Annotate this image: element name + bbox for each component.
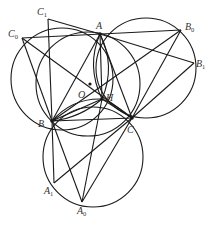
line-b-a1 — [52, 121, 54, 183]
point-c — [130, 116, 134, 120]
line-c-a0 — [82, 118, 132, 202]
line-a-c — [100, 34, 132, 118]
label-b0: B0 — [185, 21, 194, 33]
label-a: A — [95, 20, 103, 31]
line-c0-c — [22, 38, 132, 118]
point-o — [88, 82, 91, 85]
point-h — [100, 97, 104, 101]
line-c0-b — [22, 38, 52, 121]
line-b1-c — [132, 63, 194, 118]
line-a-b — [52, 34, 100, 121]
line-c-a1 — [54, 118, 132, 183]
line-c1-b — [48, 19, 52, 121]
label-o: O — [78, 89, 85, 100]
line-h-a0 — [82, 99, 102, 202]
label-h: H — [105, 92, 114, 103]
label-c: C — [127, 124, 134, 135]
label-c1: C1 — [37, 6, 47, 18]
point-b — [50, 119, 54, 123]
label-b: B — [38, 118, 44, 129]
label-b1: B1 — [196, 58, 205, 70]
line-b-a0 — [52, 121, 82, 202]
line-c1-a — [48, 19, 100, 34]
point-a — [98, 32, 102, 36]
geometry-diagram: A B C H O C0 C1 B0 B1 A1 A0 — [0, 0, 209, 228]
label-c0: C0 — [8, 28, 18, 40]
label-a1: A1 — [43, 185, 53, 197]
line-a-b1 — [100, 34, 194, 63]
